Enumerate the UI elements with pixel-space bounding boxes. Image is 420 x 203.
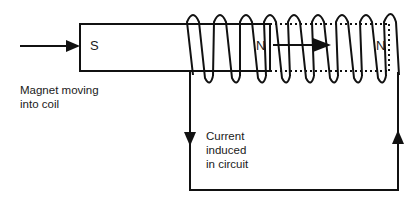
current-caption-line2: induced (206, 143, 248, 157)
pole-north: N (256, 38, 265, 53)
current-arrow-up (392, 130, 404, 144)
pole-south: S (90, 38, 99, 53)
magnet-caption: Magnet moving into coil (20, 83, 99, 111)
current-caption-line1: Current (206, 129, 248, 143)
bar-magnet (80, 24, 270, 71)
current-arrow-down (184, 132, 196, 146)
current-caption-line3: in circuit (206, 157, 248, 171)
magnet-caption-line2: into coil (20, 97, 99, 111)
magnet-caption-line1: Magnet moving (20, 83, 99, 97)
pole-north-final: N (376, 38, 385, 53)
motion-arrow (20, 40, 80, 52)
current-caption: Current induced in circuit (206, 129, 248, 171)
